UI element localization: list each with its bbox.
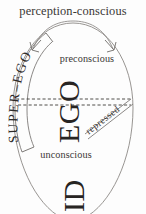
label-repressed: repressed: [83, 103, 121, 136]
superego-tick-top-icon: [46, 33, 53, 42]
label-ego: EGO: [52, 80, 85, 143]
label-preconscious: preconscious: [60, 53, 114, 64]
superego-tick-bottom-icon: [22, 147, 34, 152]
label-unconscious: unconscious: [40, 149, 91, 160]
label-perception-conscious: perception-conscious: [19, 4, 126, 18]
perception-conscious-arc: [33, 21, 113, 49]
label-id: ID: [57, 179, 90, 212]
arc-tick-right-barb2-icon: [107, 50, 114, 52]
arc-tick-left-barb2-icon: [32, 50, 39, 52]
label-super-ego: SUPER–EGO: [5, 48, 35, 144]
freud-structural-diagram: perception-conscious SUPER–EGO preconsci…: [0, 0, 146, 214]
diagram-canvas: perception-conscious SUPER–EGO preconsci…: [0, 0, 146, 214]
